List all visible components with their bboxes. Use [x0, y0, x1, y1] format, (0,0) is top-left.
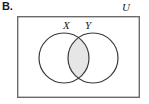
set-x-label: X: [63, 19, 70, 31]
venn-canvas: [0, 0, 149, 104]
venn-figure: B. U X Y: [0, 0, 149, 104]
set-y-label: Y: [85, 19, 91, 31]
